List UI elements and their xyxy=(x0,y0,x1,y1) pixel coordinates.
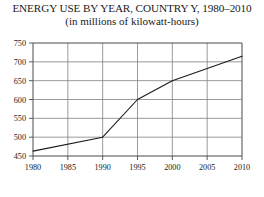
y-axis-ticks xyxy=(29,43,33,156)
x-tick-label: 2010 xyxy=(234,163,250,172)
x-axis-tick-labels: 1980198519901995200020052010 xyxy=(25,163,250,172)
y-tick-label: 700 xyxy=(14,58,26,67)
chart-figure: ENERGY USE BY YEAR, COUNTRY Y, 1980–2010… xyxy=(0,0,264,197)
x-tick-label: 1980 xyxy=(25,163,41,172)
chart-title: ENERGY USE BY YEAR, COUNTRY Y, 1980–2010 xyxy=(0,2,264,15)
line-chart-svg: 450500550600650700750 198019851990199520… xyxy=(0,31,264,191)
x-tick-label: 2000 xyxy=(164,163,180,172)
y-tick-label: 750 xyxy=(14,39,26,48)
y-tick-label: 600 xyxy=(14,95,26,104)
x-axis-ticks xyxy=(33,156,242,160)
y-tick-label: 500 xyxy=(14,133,26,142)
x-tick-label: 2005 xyxy=(199,163,215,172)
y-tick-label: 550 xyxy=(14,114,26,123)
title-block: ENERGY USE BY YEAR, COUNTRY Y, 1980–2010… xyxy=(0,2,264,27)
chart-subtitle: (in millions of kilowatt-hours) xyxy=(0,15,264,27)
y-tick-label: 450 xyxy=(14,152,26,161)
x-tick-label: 1990 xyxy=(94,163,110,172)
x-tick-label: 1985 xyxy=(60,163,76,172)
x-tick-label: 1995 xyxy=(129,163,145,172)
plot-area: 450500550600650700750 198019851990199520… xyxy=(0,31,264,191)
y-tick-label: 650 xyxy=(14,77,26,86)
y-axis-tick-labels: 450500550600650700750 xyxy=(14,39,26,161)
